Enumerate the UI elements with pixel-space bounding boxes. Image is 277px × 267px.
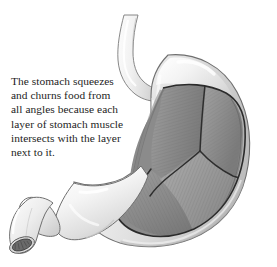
figure-canvas: The stomach squeezes and churns food fro… <box>0 0 277 267</box>
caption-text: The stomach squeezes and churns food fro… <box>11 74 153 159</box>
